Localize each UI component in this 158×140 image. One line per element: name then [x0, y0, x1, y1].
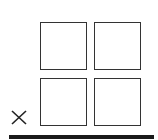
cell-label [95, 23, 96, 24]
cell-label [95, 79, 96, 80]
cell-label [41, 23, 42, 24]
cell-label [41, 79, 42, 80]
grid-cell-bottom-left[interactable] [40, 78, 87, 126]
grid-cell-bottom-right[interactable] [94, 78, 141, 126]
grid-cell-top-right[interactable] [94, 22, 141, 70]
grid-cell-top-left[interactable] [40, 22, 87, 70]
close-icon[interactable] [10, 108, 28, 126]
bottom-bar [9, 135, 154, 139]
